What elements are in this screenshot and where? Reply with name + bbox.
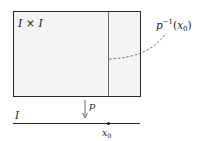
fiber-diagram: I × I p−1(x0) p I x0 [0,0,203,141]
point-label: x0 [102,127,112,140]
point-x0 [107,122,110,125]
square-label: I × I [17,17,44,30]
fiber-label: p−1(x0) [156,18,192,33]
interval-label: I [14,109,20,121]
projection-label: p [89,100,96,111]
